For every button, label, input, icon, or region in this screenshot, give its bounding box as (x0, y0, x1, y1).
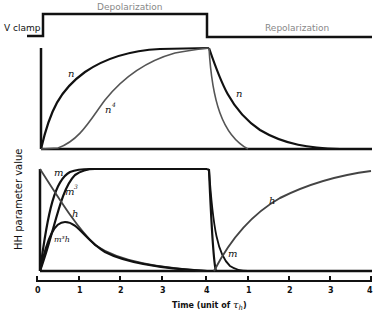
curve-n-repol (209, 48, 340, 149)
tick-0: 0 (35, 286, 41, 295)
sodium-panel: m m 3 h m³h h m (40, 167, 372, 271)
label-n: n (68, 68, 74, 79)
depolarization-label: Depolarization (97, 2, 162, 12)
tick-r2: 2 (287, 286, 293, 295)
curve-m-depol (40, 169, 207, 271)
curve-n4-depol (41, 48, 209, 149)
label-n4: n (105, 104, 111, 115)
curve-m3h-depol (40, 222, 207, 271)
label-m: m (54, 167, 63, 178)
tick-4: 4 (204, 286, 210, 295)
v-clamp-label: V clamp (4, 23, 41, 33)
label-m3h: m³h (54, 235, 70, 244)
tick-r1: 1 (246, 286, 252, 295)
tick-r3: 3 (328, 286, 334, 295)
curve-n-depol (41, 48, 209, 149)
label-m-repol: m (228, 248, 237, 259)
y-axis-label: HH parameter value (13, 148, 24, 250)
hh-chart: Depolarization Repolarization V clamp HH… (0, 0, 379, 317)
label-h: h (72, 208, 78, 219)
tick-3: 3 (160, 286, 166, 295)
label-h-repol: h (269, 195, 275, 206)
label-n-repol: n (236, 88, 242, 99)
curve-h-repol (214, 171, 371, 271)
potassium-panel: n n 4 n (41, 48, 372, 149)
tick-2: 2 (118, 286, 124, 295)
curve-h-depol (40, 169, 207, 271)
label-m3-sup: 3 (74, 183, 78, 190)
x-axis: 0 1 2 3 4 1 2 3 4 (35, 276, 373, 295)
repolarization-label: Repolarization (265, 23, 329, 33)
label-n4-sup: 4 (111, 101, 116, 108)
x-axis-label: Time (unit of τh) (172, 299, 247, 312)
tick-r4: 4 (367, 286, 373, 295)
tick-1: 1 (77, 286, 83, 295)
